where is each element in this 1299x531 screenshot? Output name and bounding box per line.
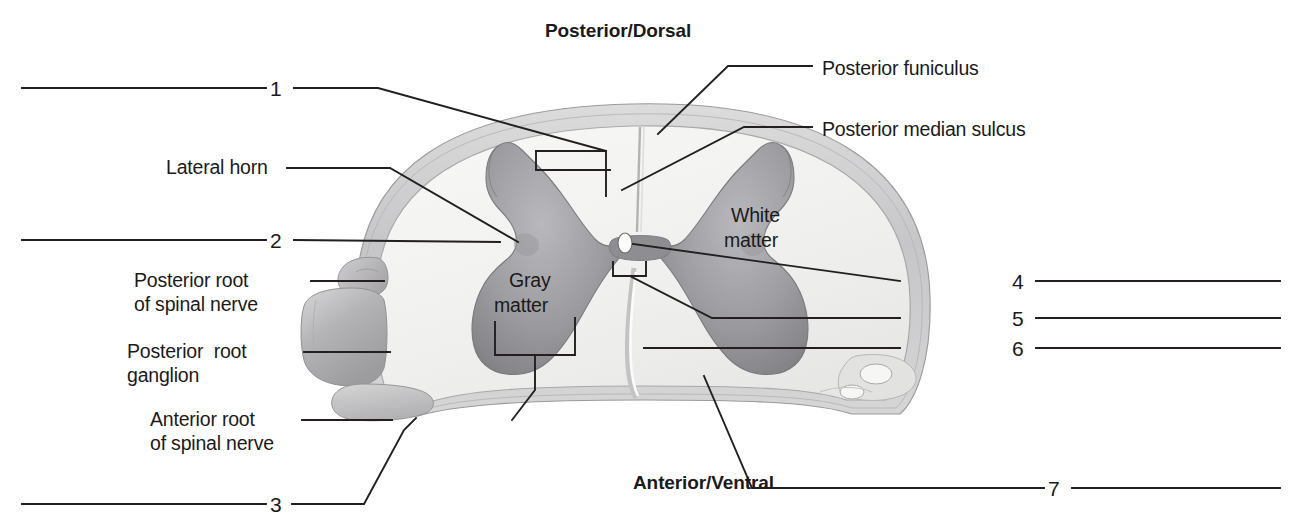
gray-matter-label-line1: Gray bbox=[509, 268, 579, 293]
leader-3-pointer bbox=[292, 418, 416, 504]
orientation-label-posterior-dorsal: Posterior/Dorsal bbox=[545, 18, 691, 43]
orientation-label-anterior-ventral: Anterior/Ventral bbox=[633, 470, 774, 495]
label-lateral-horn: Lateral horn bbox=[166, 155, 268, 180]
label-number-5[interactable]: 5 bbox=[1012, 306, 1024, 331]
label-number-1[interactable]: 1 bbox=[270, 76, 282, 101]
gray-matter-label-line2: matter bbox=[494, 293, 594, 318]
label-posterior-median-sulcus: Posterior median sulcus bbox=[822, 117, 1026, 142]
anterior-root-left bbox=[332, 384, 434, 421]
spinal-cord-figure: Posterior/Dorsal Anterior/Ventral White … bbox=[0, 0, 1299, 531]
white-matter-label-line1: White bbox=[731, 203, 811, 228]
label-number-2[interactable]: 2 bbox=[270, 228, 282, 253]
label-anterior-root-line2: of spinal nerve bbox=[150, 431, 274, 456]
posterior-root-ganglion bbox=[301, 288, 387, 386]
label-posterior-root-ganglion-line1: Posterior root bbox=[127, 339, 246, 364]
label-number-7[interactable]: 7 bbox=[1048, 476, 1060, 501]
label-posterior-funiculus: Posterior funiculus bbox=[822, 56, 979, 81]
central-canal bbox=[618, 233, 632, 253]
label-number-4[interactable]: 4 bbox=[1012, 269, 1024, 294]
label-number-3[interactable]: 3 bbox=[270, 492, 282, 517]
label-posterior-root-ganglion-line2: ganglion bbox=[127, 363, 199, 388]
label-posterior-root-line2: of spinal nerve bbox=[134, 292, 258, 317]
label-anterior-root-line1: Anterior root bbox=[150, 407, 255, 432]
label-posterior-root-line1: Posterior root bbox=[134, 268, 248, 293]
white-matter-label-line2: matter bbox=[724, 228, 818, 253]
label-number-6[interactable]: 6 bbox=[1012, 336, 1024, 361]
